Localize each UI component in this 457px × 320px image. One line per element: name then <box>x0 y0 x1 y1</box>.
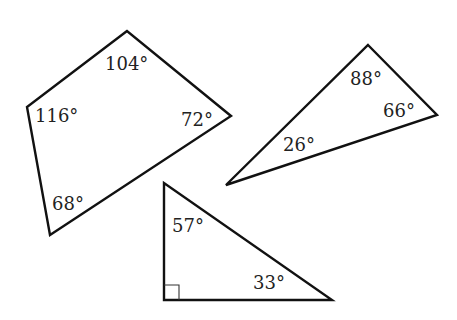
obtuse-tri-angle-left: 26° <box>283 136 315 154</box>
right-tri-angle-top: 57° <box>172 217 204 235</box>
quad-angle-right: 72° <box>181 111 213 129</box>
quad-angle-left: 116° <box>35 107 78 125</box>
figure-svg <box>0 0 457 320</box>
right-tri-angle-bottom-right: 33° <box>253 274 285 292</box>
quad-angle-bottom: 68° <box>52 195 84 213</box>
quad-angle-top: 104° <box>105 55 148 73</box>
obtuse-tri-angle-top: 88° <box>350 70 382 88</box>
obtuse-tri-angle-right: 66° <box>383 102 415 120</box>
angles-figure: 104° 116° 72° 68° 88° 66° 26° 57° 33° <box>0 0 457 320</box>
right-angle-mark <box>164 285 179 300</box>
right-triangle <box>164 183 332 300</box>
